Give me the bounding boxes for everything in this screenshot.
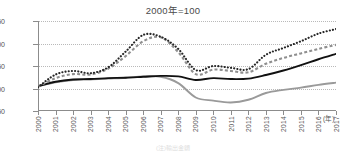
x-axis-tick-label: 2014: [280, 116, 287, 132]
series-layer: [38, 21, 336, 111]
y-axis-tick-label: 250: [0, 18, 5, 25]
y-axis-tick-mark: [33, 21, 38, 22]
x-axis-tick-label: 2003: [87, 116, 94, 132]
x-axis-tick-mark: [126, 111, 127, 115]
x-axis-tick-label: 2001: [52, 116, 59, 132]
chart-title: 2000年=100: [0, 3, 346, 17]
x-axis-tick-mark: [196, 111, 197, 115]
source-note: (注)輸出金額: [0, 145, 346, 151]
x-axis-tick-mark: [301, 111, 302, 115]
x-axis-tick-mark: [108, 111, 109, 115]
x-axis-tick-label: 2012: [245, 116, 252, 132]
x-axis-tick-mark: [248, 111, 249, 115]
x-axis-tick-mark: [143, 111, 144, 115]
y-axis-tick-label: 200: [0, 40, 5, 47]
x-axis-tick-label: 2017: [333, 116, 340, 132]
x-axis-tick-mark: [178, 111, 179, 115]
x-axis-tick-label: 2004: [105, 116, 112, 132]
x-axis-tick-mark: [318, 111, 319, 115]
x-axis-tick-label: 2011: [228, 116, 235, 131]
x-axis-tick-mark: [73, 111, 74, 115]
x-axis-tick-label: 2005: [122, 116, 129, 132]
y-axis-tick-mark: [33, 66, 38, 67]
x-axis-tick-label: 2015: [298, 116, 305, 132]
y-axis-tick-mark: [33, 89, 38, 90]
y-axis-tick-mark: [33, 44, 38, 45]
x-axis-tick-mark: [161, 111, 162, 115]
x-axis-tick-label: 2009: [192, 116, 199, 132]
x-axis-tick-label: 2007: [157, 116, 164, 132]
x-axis-tick-mark: [213, 111, 214, 115]
chart-figure: 2000年=100 (年) (注)輸出金額 250200150100502000…: [0, 0, 346, 151]
x-axis-tick-mark: [283, 111, 284, 115]
x-axis-tick-label: 2000: [35, 116, 42, 132]
x-axis-tick-mark: [91, 111, 92, 115]
x-axis-tick-mark: [56, 111, 57, 115]
x-axis-tick-label: 2008: [175, 116, 182, 132]
x-axis-tick-label: 2010: [210, 116, 217, 132]
y-axis-tick-label: 100: [0, 85, 5, 92]
y-axis-tick-label: 50: [0, 108, 5, 115]
y-axis-tick-label: 150: [0, 63, 5, 70]
x-axis-tick-mark: [38, 111, 39, 115]
x-axis-tick-mark: [266, 111, 267, 115]
x-axis-tick-label: 2013: [263, 116, 270, 132]
x-axis-tick-label: 2016: [315, 116, 322, 132]
x-axis-tick-label: 2002: [70, 116, 77, 132]
x-axis-tick-mark: [336, 111, 337, 115]
x-axis-tick-label: 2006: [140, 116, 147, 132]
x-axis-tick-mark: [231, 111, 232, 115]
